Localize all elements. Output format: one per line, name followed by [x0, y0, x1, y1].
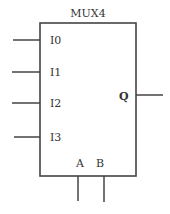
- component-title: MUX4: [70, 7, 105, 20]
- pin-i0-label: I0: [50, 34, 61, 47]
- mux4-diagram: MUX4 I0 I1 I2 I3 Q A B: [0, 0, 170, 214]
- pin-i1-label: I1: [50, 66, 61, 79]
- pin-q-label: Q: [119, 90, 129, 103]
- pin-b-label: B: [96, 157, 104, 170]
- pin-i3-label: I3: [50, 131, 61, 144]
- pin-i2-label: I2: [50, 97, 61, 110]
- pin-a-label: A: [75, 157, 85, 170]
